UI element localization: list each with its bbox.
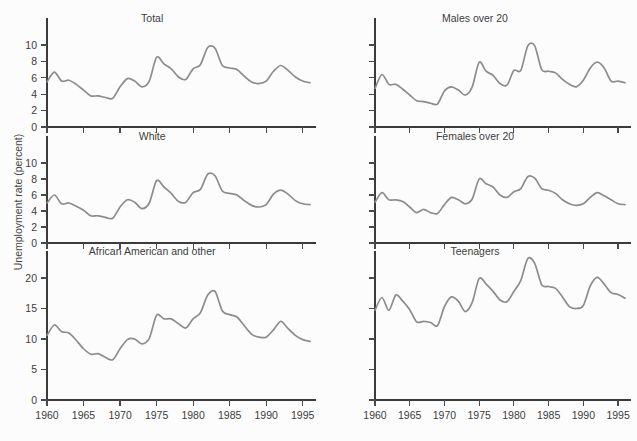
series-line-total [47,46,310,99]
series-line-males-over-20 [375,43,625,105]
x-tick-label-1970: 1970 [108,409,132,421]
y-tick-label-8: 8 [31,173,37,185]
panel-white: 0246810White [25,130,316,249]
y-tick-label-8: 8 [31,55,37,67]
panel-males-over-20: Males over 20 [369,12,631,133]
panel-african-american-and-other: 0510152019601965197019751980198519901995… [25,245,316,421]
y-tick-label-4: 4 [31,88,37,100]
x-tick-label-1965: 1965 [398,409,422,421]
x-tick-label-1960: 1960 [35,409,59,421]
y-tick-label-2: 2 [31,104,37,116]
panel-total: 0246810Total [25,12,316,133]
y-tick-label-0: 0 [31,121,37,133]
x-tick-label-1985: 1985 [537,409,561,421]
y-tick-label-5: 5 [31,363,37,375]
y-tick-label-15: 15 [25,302,37,314]
y-tick-label-0: 0 [31,394,37,406]
x-tick-label-1990: 1990 [572,409,596,421]
x-tick-label-1980: 1980 [502,409,526,421]
series-line-teenagers [375,258,625,327]
x-tick-label-1985: 1985 [218,409,242,421]
series-line-females-over-20 [375,176,625,214]
y-tick-label-10: 10 [25,39,37,51]
x-tick-label-1980: 1980 [181,409,205,421]
y-tick-label-6: 6 [31,72,37,84]
panel-title-males-over-20: Males over 20 [442,12,508,24]
y-tick-label-2: 2 [31,221,37,233]
panel-title-white: White [139,130,166,142]
plot-canvas: 0246810TotalMales over 200246810WhiteFem… [0,0,637,441]
unemployment-panel-figure: Unemployment rate (percent) 0246810Total… [0,0,637,441]
panel-title-teenagers: Teenagers [450,245,499,257]
y-tick-label-0: 0 [31,237,37,249]
panel-title-females-over-20: Females over 20 [436,130,514,142]
series-line-white [47,173,310,219]
y-tick-label-20: 20 [25,272,37,284]
x-tick-label-1995: 1995 [606,409,630,421]
series-line-african-american-and-other [47,291,310,361]
x-tick-label-1965: 1965 [72,409,96,421]
panel-title-african-american-and-other: African American and other [89,245,216,257]
panel-title-total: Total [141,12,163,24]
y-tick-label-10: 10 [25,157,37,169]
x-tick-label-1990: 1990 [254,409,278,421]
y-tick-label-4: 4 [31,205,37,217]
x-tick-label-1960: 1960 [363,409,387,421]
x-tick-label-1975: 1975 [145,409,169,421]
y-tick-label-10: 10 [25,333,37,345]
x-tick-label-1995: 1995 [291,409,315,421]
x-tick-label-1975: 1975 [467,409,491,421]
panel-females-over-20: Females over 20 [369,130,631,249]
x-tick-label-1970: 1970 [433,409,457,421]
y-tick-label-6: 6 [31,189,37,201]
panel-teenagers: 19601965197019751980198519901995Teenager… [363,245,631,421]
